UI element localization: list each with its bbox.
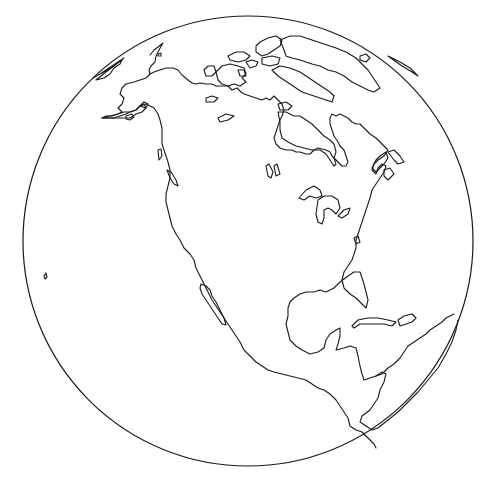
globe-outline: [23, 16, 473, 466]
globe-map[interactable]: [0, 0, 491, 483]
map-container: [0, 0, 491, 483]
